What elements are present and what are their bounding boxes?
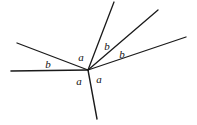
angle-label-b-upper-inner: b (104, 41, 110, 52)
angle-label-a-upper-left: a (78, 52, 84, 63)
ray-canvas (0, 0, 197, 125)
angle-label-b-upper-outer: b (119, 49, 125, 60)
ray-right-shallow (88, 37, 186, 70)
angle-label-a-lower-left: a (76, 76, 82, 87)
ray-horizontal-left (11, 70, 88, 71)
ray-upper-right-diagonal (88, 10, 158, 70)
rays-group (11, 2, 186, 119)
angle-diagram: babbaa (0, 0, 197, 125)
angle-label-b-left: b (45, 59, 51, 70)
angle-label-a-lower-right: a (96, 74, 102, 85)
ray-steep-up (88, 2, 114, 70)
